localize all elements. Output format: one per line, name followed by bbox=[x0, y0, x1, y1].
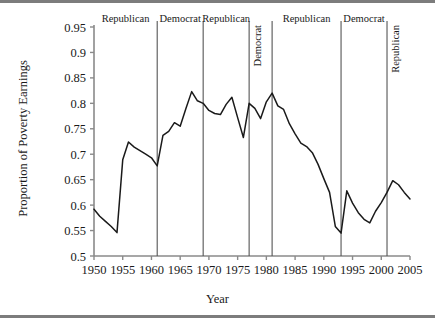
era-divider-lines-group bbox=[157, 21, 387, 256]
y-tick-label: 0.95 bbox=[64, 21, 86, 35]
x-tick-label: 1960 bbox=[139, 263, 164, 277]
x-tick-label: 1985 bbox=[283, 263, 308, 277]
x-tick-label: 1965 bbox=[168, 263, 193, 277]
y-tick-label: 0.55 bbox=[64, 224, 86, 238]
y-tick-label: 0.6 bbox=[70, 199, 86, 213]
era-label: Democrat bbox=[252, 25, 263, 66]
y-tick-label: 0.7 bbox=[70, 148, 86, 162]
x-tick-label: 2005 bbox=[398, 263, 423, 277]
chart-figure-root: Proportion of Poverty Earnings Year 0.50… bbox=[0, 0, 435, 318]
era-label: Republican bbox=[390, 24, 401, 73]
era-label: Democrat bbox=[343, 13, 384, 24]
x-axis-ticks-group: 1950195519601965197019751980198519901995… bbox=[82, 256, 423, 277]
x-tick-label: 1950 bbox=[82, 263, 107, 277]
plot-canvas: 0.50.550.60.650.70.750.80.850.90.95 1950… bbox=[0, 3, 435, 315]
chart-svg: 0.50.550.60.650.70.750.80.850.90.95 1950… bbox=[0, 3, 435, 315]
data-series-group bbox=[94, 92, 410, 233]
x-tick-label: 1955 bbox=[110, 263, 135, 277]
y-tick-label: 0.9 bbox=[70, 46, 86, 60]
x-tick-label: 2000 bbox=[369, 263, 394, 277]
data-line bbox=[94, 92, 410, 233]
x-tick-label: 1970 bbox=[196, 263, 221, 277]
y-tick-label: 0.65 bbox=[64, 173, 86, 187]
era-label: Republican bbox=[102, 13, 151, 24]
y-tick-label: 0.5 bbox=[70, 250, 86, 264]
y-tick-label: 0.75 bbox=[64, 122, 86, 136]
era-labels-group: RepublicanDemocratRepublicanDemocratRepu… bbox=[102, 13, 401, 73]
x-tick-label: 1975 bbox=[225, 263, 250, 277]
line-chart: Proportion of Poverty Earnings Year 0.50… bbox=[0, 3, 435, 315]
y-tick-label: 0.85 bbox=[64, 71, 86, 85]
x-tick-label: 1980 bbox=[254, 263, 279, 277]
x-tick-label: 1995 bbox=[340, 263, 365, 277]
x-tick-label: 1990 bbox=[311, 263, 336, 277]
era-label: Democrat bbox=[159, 13, 200, 24]
y-tick-label: 0.8 bbox=[70, 97, 86, 111]
era-label: Republican bbox=[283, 13, 332, 24]
y-axis-ticks-group: 0.50.550.60.650.70.750.80.850.90.95 bbox=[64, 21, 94, 264]
era-label: Republican bbox=[202, 13, 251, 24]
